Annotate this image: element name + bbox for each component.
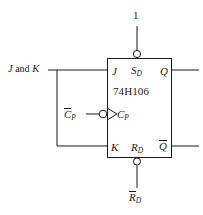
reset-input-overbar: R bbox=[129, 191, 136, 204]
chip-part-number-label: 74H106 bbox=[113, 86, 149, 97]
pin-label-q: Q bbox=[160, 66, 168, 77]
pin-label-reset: RD bbox=[131, 142, 143, 155]
reset-inversion-bubble-icon bbox=[133, 158, 140, 165]
pin-q-not-overbar: Q bbox=[159, 140, 167, 153]
pin-label-j: J bbox=[112, 66, 117, 77]
jk-input-k: K bbox=[32, 63, 39, 74]
pin-reset-letter: R bbox=[131, 141, 138, 153]
pin-clock-subscript: P bbox=[124, 113, 129, 122]
reset-input-letter: R bbox=[129, 191, 136, 203]
jk-input-label: J and K bbox=[8, 64, 39, 75]
clock-input-label: CP bbox=[64, 108, 76, 122]
reset-input-label: RD bbox=[129, 191, 141, 205]
jk-input-conjunction: and bbox=[13, 63, 32, 74]
pin-label-set: SD bbox=[131, 65, 142, 78]
set-inversion-bubble-icon bbox=[133, 50, 140, 57]
clock-inversion-bubble-icon bbox=[99, 110, 107, 118]
clock-input-subscript: P bbox=[71, 113, 76, 122]
pin-label-clock: CP bbox=[117, 109, 129, 122]
schematic-canvas bbox=[0, 0, 203, 215]
clock-dynamic-input-triangle-icon bbox=[108, 109, 117, 120]
pin-label-q-not: Q bbox=[159, 140, 167, 153]
logic-schematic-figure: 1 J and K CP RD 74H106 J K CP SD RD Q Q bbox=[0, 0, 203, 215]
reset-input-subscript: D bbox=[136, 196, 141, 205]
pin-q-not-letter: Q bbox=[159, 140, 167, 152]
pin-reset-subscript: D bbox=[138, 146, 143, 155]
constant-one-label: 1 bbox=[133, 10, 139, 21]
pin-set-subscript: D bbox=[137, 69, 142, 78]
pin-label-k: K bbox=[111, 142, 118, 153]
